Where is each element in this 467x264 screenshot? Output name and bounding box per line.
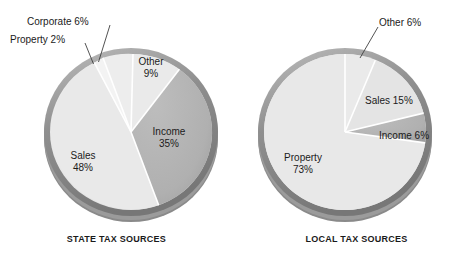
state-chart-caption: STATE TAX SOURCES <box>0 234 233 244</box>
local-label-income: Income 6% <box>379 130 429 142</box>
state-label-other-value: 9% <box>126 68 176 80</box>
local-label-sales: Sales 15% <box>365 95 413 107</box>
local-label-other: Other 6% <box>379 17 421 29</box>
state-label-income-name: Income <box>141 126 197 138</box>
state-label-sales-name: Sales <box>58 150 108 162</box>
state-label-corporate: Corporate 6% <box>27 16 89 28</box>
local-label-property-value: 73% <box>272 164 334 176</box>
local-tax-pie-panel: Other 6% Sales 15% Income 6% Property 73… <box>234 0 467 264</box>
local-chart-caption: LOCAL TAX SOURCES <box>240 234 467 244</box>
state-label-sales-value: 48% <box>58 162 108 174</box>
local-pie-chart <box>234 0 467 264</box>
state-label-income-value: 35% <box>141 138 197 150</box>
state-label-other-name: Other <box>126 56 176 68</box>
state-label-property: Property 2% <box>10 34 65 46</box>
state-tax-pie-panel: Corporate 6% Property 2% Other 9% Income… <box>0 0 233 264</box>
tax-sources-figure: Corporate 6% Property 2% Other 9% Income… <box>0 0 467 264</box>
local-label-property-name: Property <box>272 152 334 164</box>
